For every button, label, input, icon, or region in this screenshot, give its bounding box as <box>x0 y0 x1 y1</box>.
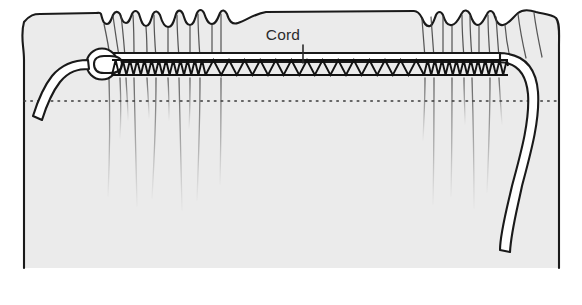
page-title: Cord <box>266 26 300 43</box>
illustration-figure: Cord <box>0 0 582 305</box>
cord-stitching-diagram: Cord <box>0 0 582 305</box>
